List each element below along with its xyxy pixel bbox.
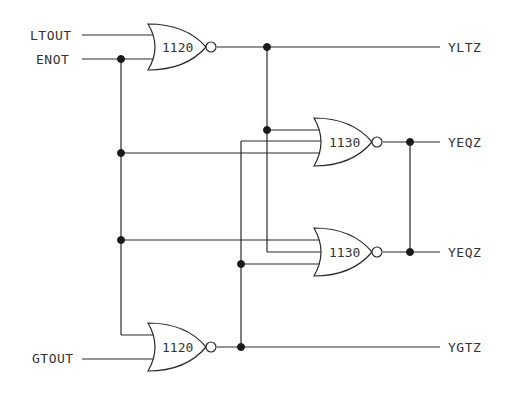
input-label-ltout: LTOUT [30, 28, 72, 43]
output-label-yltz: YLTZ [448, 40, 481, 55]
junction-dot [118, 237, 125, 244]
logic-diagram: LTOUT ENOT GTOUT YLTZ YEQZ YEQZ YGTZ [0, 0, 510, 393]
junctions [118, 44, 414, 351]
input-label-enot: ENOT [36, 52, 69, 67]
junction-dot [118, 56, 125, 63]
gate-label: 1130 [329, 135, 360, 150]
wires [82, 35, 440, 359]
nor-gate-1130-mid1: 1130 [314, 118, 382, 166]
junction-dot [118, 150, 125, 157]
junction-dot [407, 139, 414, 146]
output-label-ygtz: YGTZ [448, 340, 481, 355]
junction-dot [238, 344, 245, 351]
gate-label: 1130 [329, 245, 360, 260]
junction-dot [238, 261, 245, 268]
nor-gate-1120-bottom: 1120 [148, 323, 216, 371]
output-label-yeqz-2: YEQZ [448, 245, 481, 260]
junction-dot [407, 249, 414, 256]
gate-label: 1120 [162, 340, 193, 355]
junction-dot [264, 127, 271, 134]
gate-label: 1120 [162, 40, 193, 55]
nor-gate-1120-top: 1120 [148, 24, 216, 70]
input-label-gtout: GTOUT [32, 351, 74, 366]
junction-dot [264, 44, 271, 51]
output-label-yeqz-1: YEQZ [448, 135, 481, 150]
nor-gate-1130-mid2: 1130 [314, 228, 382, 276]
